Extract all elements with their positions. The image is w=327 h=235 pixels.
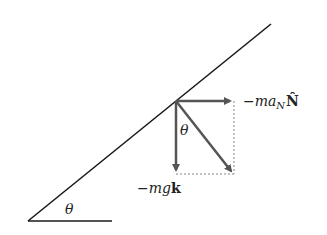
normal-force-label: −maNN̂ [243,92,299,111]
gravity-label: −mgk [137,180,181,196]
incline-diagram: θ θ −maNN̂ −mgk [0,0,327,235]
incline-angle-label: θ [65,201,74,217]
vector-angle-label: θ [180,122,189,138]
